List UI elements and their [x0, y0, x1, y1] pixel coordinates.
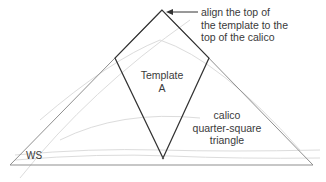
calico-label: calico quarter-square triangle: [188, 109, 266, 147]
ws-label: WS: [26, 150, 42, 163]
template-label-line-2: A: [136, 82, 188, 95]
callout-text: align the top of the template to the top…: [201, 6, 288, 44]
template-label-line-1: Template: [136, 69, 188, 82]
callout-line-2: the template to the: [201, 19, 288, 32]
fabric-texture: [15, 20, 320, 178]
diagram-canvas: align the top of the template to the top…: [0, 0, 326, 182]
callout-line-3: top of the calico: [201, 31, 288, 44]
calico-label-line-3: triangle: [188, 134, 266, 147]
template-label: Template A: [136, 69, 188, 94]
callout-arrow-icon: [166, 9, 198, 15]
template-bottom-point: [162, 157, 164, 159]
callout-line-1: align the top of: [201, 6, 288, 19]
calico-label-line-1: calico: [188, 109, 266, 122]
calico-label-line-2: quarter-square: [188, 122, 266, 135]
